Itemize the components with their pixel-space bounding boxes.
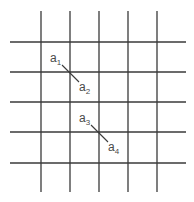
horizontal-lines	[10, 42, 186, 163]
label-a1: a1	[50, 51, 62, 67]
grid-diagram: a1 a2 a3 a4	[0, 0, 194, 202]
label-a2: a2	[79, 80, 91, 96]
label-a4: a4	[108, 140, 120, 156]
label-a3: a3	[79, 111, 91, 127]
